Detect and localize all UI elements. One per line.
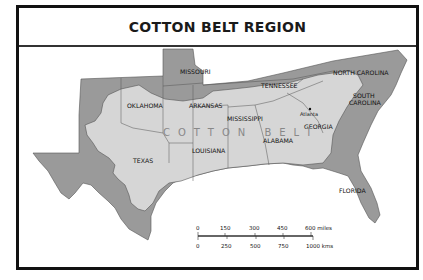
scale-bar: 0 150 300 450 600 miles 0 250 500 750 10… [196, 225, 333, 249]
scale-kms-750: 750 [278, 243, 289, 249]
state-label-alabama: ALABAMA [263, 137, 294, 144]
scale-kms-0: 0 [196, 243, 200, 249]
scale-miles-300: 300 [249, 225, 260, 231]
scale-kms-500: 500 [250, 243, 261, 249]
state-label-mississippi: MISSISSIPPI [227, 115, 263, 122]
scale-miles-450: 450 [277, 225, 288, 231]
city-label-atlanta: Atlanta [300, 111, 318, 117]
scale-miles-600: 600 miles [305, 225, 332, 231]
state-label-florida: FLORIDA [339, 187, 366, 194]
scale-miles-0: 0 [196, 225, 200, 231]
scale-kms-250: 250 [221, 243, 232, 249]
scale-miles-150: 150 [220, 225, 231, 231]
state-label-missouri: MISSOURI [180, 68, 211, 75]
state-label-oklahoma: OKLAHOMA [127, 102, 164, 109]
state-label-louisiana: LOUISIANA [192, 147, 226, 154]
state-label-texas: TEXAS [132, 157, 153, 164]
state-label-north-carolina: NORTH CAROLINA [333, 69, 389, 76]
city-marker-atlanta [309, 108, 311, 110]
cotton-belt-region [85, 71, 363, 211]
state-label-south-carolina-line2: CAROLINA [349, 99, 382, 106]
map-frame: COTTON BELT REGION MISSOURI TENNESSEE NO… [16, 5, 419, 270]
scale-kms-1000: 1000 kms [306, 243, 333, 249]
state-label-south-carolina-line1: SOUTH [353, 92, 375, 99]
state-label-tennessee: TENNESSEE [260, 82, 298, 89]
cotton-belt-map: MISSOURI TENNESSEE NORTH CAROLINA OKLAHO… [19, 8, 416, 267]
state-label-arkansas: ARKANSAS [189, 102, 223, 109]
cotton-belt-label: COTTON BELT [163, 127, 320, 138]
